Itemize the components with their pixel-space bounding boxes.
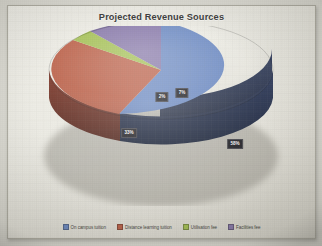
legend-item-facilities-fee: Facilities fee bbox=[228, 224, 260, 230]
data-label-on-campus-tuition: 58% bbox=[227, 139, 243, 149]
legend-label: Facilities fee bbox=[236, 225, 260, 230]
legend-swatch-icon bbox=[228, 224, 234, 230]
legend-swatch-icon bbox=[63, 224, 69, 230]
legend-swatch-icon bbox=[117, 224, 123, 230]
data-label-facilities-fee: 7% bbox=[175, 88, 188, 98]
pie-chart: 58% 33% 2% 7% bbox=[24, 26, 296, 206]
legend-item-utilisation-fee: Utilisation fee bbox=[183, 224, 217, 230]
legend-label: Distance learning tuition bbox=[125, 225, 172, 230]
legend-item-on-campus-tuition: On campus tuition bbox=[63, 224, 106, 230]
legend-label: On campus tuition bbox=[71, 225, 106, 230]
slide-panel: Projected Revenue Sources bbox=[7, 5, 316, 239]
legend-label: Utilisation fee bbox=[191, 225, 217, 230]
pie-chart-svg bbox=[24, 26, 296, 206]
chart-title: Projected Revenue Sources bbox=[8, 12, 315, 22]
data-label-distance-learning-tuition: 33% bbox=[121, 128, 137, 138]
data-label-utilisation-fee: 2% bbox=[155, 92, 168, 102]
chart-legend: On campus tuition Distance learning tuit… bbox=[8, 224, 315, 230]
legend-item-distance-learning-tuition: Distance learning tuition bbox=[117, 224, 172, 230]
photographed-slide: Projected Revenue Sources bbox=[0, 0, 322, 246]
legend-swatch-icon bbox=[183, 224, 189, 230]
